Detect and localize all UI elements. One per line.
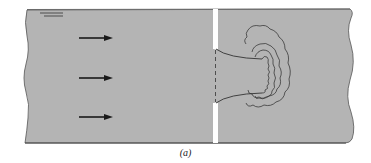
- top-boundary: [27, 9, 350, 10]
- orifice-flow-diagram: [0, 0, 371, 163]
- fluid-region: [24, 9, 354, 143]
- orifice-plate-lower: [213, 103, 218, 143]
- orifice-plate-upper: [213, 9, 218, 49]
- figure-caption: (a): [0, 147, 371, 158]
